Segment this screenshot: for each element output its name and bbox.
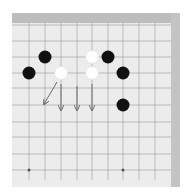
- star-point: [28, 169, 31, 172]
- black-stone: [117, 67, 130, 80]
- white-stone: [86, 51, 99, 64]
- black-stone: [23, 67, 36, 80]
- black-stone: [117, 99, 130, 112]
- white-stone: [86, 67, 99, 80]
- black-stone: [39, 51, 52, 64]
- star-point: [122, 169, 125, 172]
- arrow-icon: [44, 82, 57, 104]
- board-diagram: [0, 0, 187, 196]
- black-stone: [102, 51, 115, 64]
- white-stone: [55, 67, 68, 80]
